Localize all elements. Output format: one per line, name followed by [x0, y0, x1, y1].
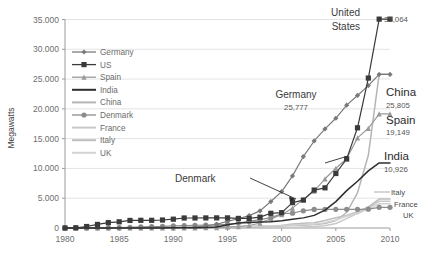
- annotation-china-label: China: [386, 86, 417, 98]
- y-tick-label: 25.000: [33, 74, 59, 84]
- legend-swatch-marker: [81, 62, 86, 67]
- x-tick-label: 1995: [218, 234, 237, 244]
- y-tick-label: 5.000: [38, 193, 60, 203]
- series-marker: [160, 217, 165, 222]
- legend-label: China: [100, 98, 122, 107]
- series-marker: [333, 207, 338, 212]
- series-marker: [138, 218, 143, 223]
- y-tick-label: 35.000: [33, 15, 59, 25]
- annotation-italy-label: Italy: [391, 188, 405, 197]
- chart-canvas: 05.00010.00015.00020.00025.00030.00035.0…: [0, 0, 433, 256]
- series-marker: [279, 210, 284, 215]
- annotation-india-value: 10,926: [384, 165, 408, 174]
- y-tick-label: 10.000: [33, 163, 59, 173]
- series-marker: [355, 125, 360, 130]
- x-tick-label: 1980: [56, 234, 75, 244]
- annotation-germany-value: 25,777: [284, 103, 308, 112]
- annotation-united-states-line2: States: [332, 21, 360, 32]
- legend-label: Denmark: [100, 111, 134, 120]
- series-marker: [387, 205, 392, 210]
- series-marker: [312, 207, 317, 212]
- series-marker: [192, 215, 197, 220]
- series-marker: [225, 215, 230, 220]
- series-marker: [182, 215, 187, 220]
- annotation-france-label: France: [394, 200, 418, 209]
- x-tick-label: 1990: [164, 234, 183, 244]
- series-marker: [84, 224, 89, 229]
- annotation-uk-label: UK: [403, 211, 414, 220]
- wind-power-capacity-chart: 05.00010.00015.00020.00025.00030.00035.0…: [0, 0, 433, 256]
- annotation-germany-label: Germany: [275, 89, 316, 100]
- x-tick-label: 2000: [272, 234, 291, 244]
- series-marker: [106, 220, 111, 225]
- y-axis-title: Megawatts: [6, 107, 16, 148]
- legend-label: Spain: [100, 73, 121, 82]
- series-marker: [203, 215, 208, 220]
- annotation-spain-label: Spain: [386, 114, 415, 126]
- annotation-united-states-line1: United: [331, 7, 360, 18]
- series-marker: [377, 205, 382, 210]
- x-tick-label: 1985: [110, 234, 129, 244]
- series-marker: [366, 207, 371, 212]
- x-tick-label: 2005: [326, 234, 345, 244]
- series-marker: [301, 208, 306, 213]
- series-marker: [377, 17, 382, 22]
- series-marker: [290, 211, 295, 216]
- series-marker: [95, 222, 100, 227]
- annotation-united-states-value: 35,064: [384, 15, 409, 24]
- legend-label: France: [100, 124, 126, 133]
- series-marker: [344, 207, 349, 212]
- annotation-denmark-label: Denmark: [175, 173, 217, 184]
- series-marker: [117, 219, 122, 224]
- series-marker: [257, 215, 262, 220]
- legend-label: Italy: [100, 136, 116, 145]
- series-marker: [322, 185, 327, 190]
- y-tick-label: 30.000: [33, 44, 59, 54]
- x-tick-label: 2010: [381, 234, 400, 244]
- y-tick-label: 0: [54, 223, 59, 233]
- series-marker: [247, 216, 252, 221]
- series-marker: [312, 187, 317, 192]
- legend-swatch-marker: [81, 112, 86, 117]
- y-tick-label: 20.000: [33, 104, 59, 114]
- series-marker: [366, 75, 371, 80]
- annotation-china-value: 25,805: [386, 101, 411, 110]
- series-marker: [236, 216, 241, 221]
- annotation-india-label: India: [384, 150, 410, 162]
- legend-label: Germany: [100, 48, 135, 57]
- legend-label: US: [100, 61, 112, 70]
- series-marker: [268, 211, 273, 216]
- legend-label: India: [100, 86, 118, 95]
- series-marker: [62, 225, 67, 230]
- series-marker: [214, 215, 219, 220]
- annotation-spain-value: 19,149: [386, 128, 410, 137]
- y-tick-label: 15.000: [33, 134, 59, 144]
- series-marker: [149, 218, 154, 223]
- series-marker: [73, 225, 78, 230]
- series-marker: [355, 207, 360, 212]
- series-marker: [127, 218, 132, 223]
- series-marker: [333, 171, 338, 176]
- series-marker: [171, 217, 176, 222]
- series-marker: [301, 198, 306, 203]
- legend-label: UK: [100, 149, 112, 158]
